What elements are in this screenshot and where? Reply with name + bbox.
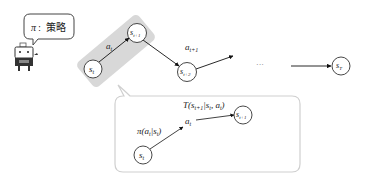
transition-expression: T(st+1|st, at) xyxy=(183,100,225,111)
state-node-s-t+1: st+1 xyxy=(128,24,147,43)
state-node-s-t+2: st+2 xyxy=(178,63,197,82)
policy-speech-bubble: π : 策略 xyxy=(24,14,74,45)
robot-icon xyxy=(15,43,38,71)
policy-label: 策略 xyxy=(46,21,66,33)
highlight-band xyxy=(75,13,157,89)
detail-state-s-t: st xyxy=(134,146,152,164)
state-node-s-t: st xyxy=(84,60,102,78)
mdp-diagram: π : 策略 st st+1 st+2 sT at at+1 xyxy=(0,0,366,176)
detail-state-s-t+1: st+1 xyxy=(234,106,252,124)
policy-separator: : xyxy=(38,23,41,33)
ellipsis: ··· xyxy=(256,60,264,69)
action-label-a-t+1: at+1 xyxy=(185,42,198,53)
state-node-s-T: sT xyxy=(332,57,350,75)
